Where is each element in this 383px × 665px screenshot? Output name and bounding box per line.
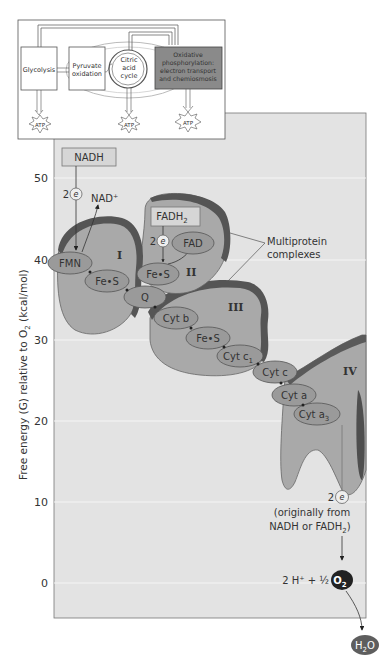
svg-text:Citric: Citric	[121, 56, 138, 64]
cellular-respiration-overview: Glycolysis Pyruvate oxidation Citric aci…	[18, 20, 225, 139]
y-tick-30: 30	[34, 334, 48, 347]
y-tick-20: 20	[34, 415, 48, 428]
svg-text:e: e	[340, 493, 345, 502]
svg-text:2: 2	[150, 236, 156, 247]
svg-text:phosphorylation:: phosphorylation:	[162, 59, 214, 67]
carrier-cyt-a: Cyt a	[272, 384, 316, 406]
nadh-box: NADH	[62, 148, 116, 166]
svg-text:and chemiosmosis: and chemiosmosis	[159, 75, 216, 82]
reactants-label: 2 H⁺ + ½	[282, 575, 329, 586]
stage-citric-acid-cycle: Citric acid cycle	[109, 50, 147, 88]
carrier-fmn: FMN	[48, 252, 92, 274]
svg-text:NADH: NADH	[74, 152, 104, 163]
svg-text:ATP: ATP	[35, 122, 46, 128]
y-axis-label: Free energy (G) relative to O2 (kcal/mol…	[17, 269, 32, 480]
svg-text:Q: Q	[141, 292, 149, 303]
svg-text:FMN: FMN	[59, 258, 81, 269]
y-tick-40: 40	[34, 254, 48, 267]
carrier-ubiquinone-q: Q	[124, 286, 166, 308]
carrier-fes-complex-i: Fe•S	[85, 270, 129, 292]
electron-badge-final: e 2	[328, 491, 349, 504]
electron-badge-fadh2: e 2	[150, 235, 169, 247]
svg-text:Cyt b: Cyt b	[163, 313, 189, 324]
y-tick-10: 10	[34, 496, 48, 509]
svg-text:ATP: ATP	[124, 122, 135, 128]
carrier-cyt-a3: Cyt a3	[294, 403, 340, 425]
svg-text:Multiprotein: Multiprotein	[267, 236, 327, 247]
svg-text:Fe•S: Fe•S	[196, 333, 220, 344]
svg-text:electron transport: electron transport	[160, 67, 216, 75]
nad-plus-label: NAD⁺	[91, 193, 118, 204]
svg-text:Fe•S: Fe•S	[95, 276, 119, 287]
electron-badge-nadh: e 2	[63, 188, 82, 200]
complex-ii-label: II	[186, 266, 196, 279]
svg-text:cycle: cycle	[121, 72, 138, 80]
y-axis-ticks: 50 40 30 20 10 0	[34, 172, 48, 590]
carrier-cyt-c: Cyt c	[253, 361, 297, 383]
electron-transport-chain-diagram: 50 40 30 20 10 0 Free energy (G) relativ…	[0, 0, 383, 665]
svg-text:e: e	[161, 237, 166, 246]
svg-text:ATP: ATP	[183, 120, 194, 126]
carrier-cyt-b: Cyt b	[154, 307, 198, 329]
svg-text:Pyruvate: Pyruvate	[73, 62, 102, 70]
complex-iii-label: III	[228, 301, 243, 314]
oxygen-o2-badge: O2	[331, 570, 353, 590]
svg-text:e: e	[74, 190, 79, 199]
svg-text:2: 2	[63, 189, 69, 200]
y-tick-50: 50	[34, 172, 48, 185]
carrier-fes-complex-ii: Fe•S	[137, 263, 179, 285]
svg-text:Glycolysis: Glycolysis	[23, 66, 56, 74]
complex-iv-label: IV	[343, 365, 357, 378]
fadh2-box: FADH2	[151, 207, 200, 226]
stage-pyruvate-oxidation: Pyruvate oxidation	[69, 47, 105, 90]
svg-text:complexes: complexes	[267, 249, 320, 260]
origin-note-line1: (originally from	[274, 507, 350, 518]
svg-text:FAD: FAD	[183, 238, 203, 249]
svg-text:2: 2	[328, 492, 334, 503]
svg-text:Cyt a: Cyt a	[281, 390, 307, 401]
complex-i-label: I	[117, 249, 122, 262]
svg-text:oxidation: oxidation	[72, 70, 102, 78]
stage-glycolysis: Glycolysis	[21, 47, 57, 90]
stage-oxidative-phosphorylation: Oxidative phosphorylation: electron tran…	[155, 47, 222, 89]
svg-text:Oxidative: Oxidative	[173, 51, 203, 58]
svg-text:acid: acid	[122, 64, 136, 72]
svg-text:Fe•S: Fe•S	[146, 269, 170, 280]
water-h2o-badge: H2O	[351, 635, 379, 655]
svg-text:Cyt c: Cyt c	[262, 367, 288, 378]
y-tick-0: 0	[41, 577, 48, 590]
carrier-fad: FAD	[172, 232, 214, 254]
